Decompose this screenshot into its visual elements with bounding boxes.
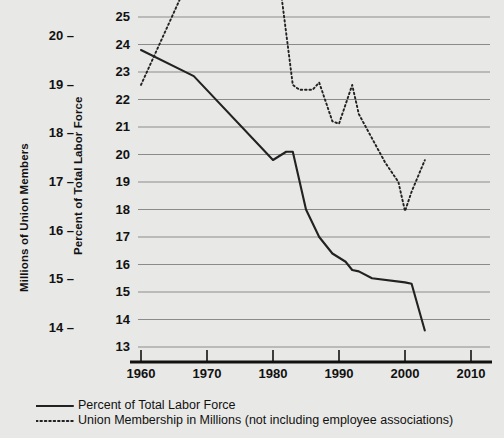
chart-container: Millions of Union Members Percent of Tot… [0, 0, 504, 438]
legend-dotted-swatch [36, 414, 76, 428]
legend-solid-swatch [36, 399, 76, 413]
legend-label: Union Membership in Millions (not includ… [78, 413, 453, 427]
legend-label: Percent of Total Labor Force [78, 398, 236, 412]
series-line-2 [141, 0, 425, 211]
chart-plot-area [0, 0, 504, 438]
series-line-1 [141, 50, 425, 331]
legend-item: Percent of Total Labor Force [0, 398, 504, 413]
legend-item: Union Membership in Millions (not includ… [0, 413, 504, 428]
